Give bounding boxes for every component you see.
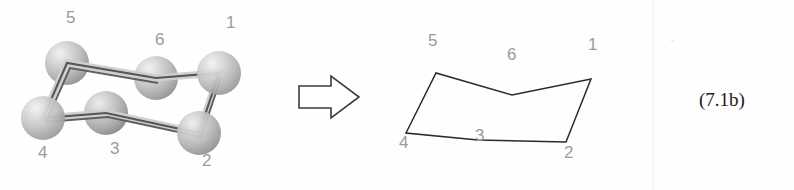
skeletal-vertex-label-5: 5 — [428, 32, 438, 49]
skeletal-vertex-label-1: 1 — [588, 36, 598, 53]
skeletal-vertex-label-4: 4 — [399, 134, 409, 151]
equation-number: (7.1b) — [699, 90, 745, 109]
cyclohexane-chair-figure: 1 2 3 4 5 6 1 2 3 4 5 6 (7.1b) — [0, 0, 794, 190]
skeletal-vertex-label-2: 2 — [564, 144, 574, 161]
page-gutter-rule — [652, 0, 654, 190]
skeletal-vertex-label-3: 3 — [475, 127, 485, 144]
page-speck — [671, 39, 674, 42]
skeletal-vertex-label-6: 6 — [507, 46, 517, 63]
skeletal-vertex-labels: 1 2 3 4 5 6 — [0, 0, 794, 190]
